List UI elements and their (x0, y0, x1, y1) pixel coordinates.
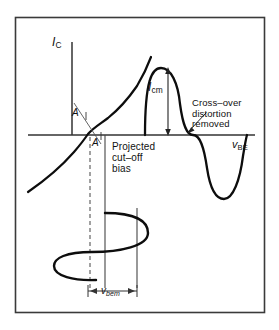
crossover-line-1: Cross–over (192, 97, 242, 108)
vbem-label-sub: bem (106, 290, 120, 297)
crossover-line-2: distortion (192, 108, 232, 119)
vbem-label: vbem (101, 285, 120, 297)
projected-line-2: cut–off (112, 152, 143, 163)
y-axis-label: IC (52, 36, 62, 50)
x-axis-label: vBE (232, 138, 248, 152)
x-axis-label-sub: BE (238, 143, 248, 152)
figure-container: IC vBE Icm Cross–overdistortionremoved P… (0, 0, 279, 330)
icm-label-sub: cm (151, 85, 162, 95)
projected-line-1: Projected (112, 141, 155, 152)
icm-label: Icm (148, 81, 163, 95)
projected-bias-annotation: Projectedcut–offbias (112, 141, 155, 175)
vbem-arrowhead-left (90, 288, 97, 294)
point-a-lower-label: A (92, 137, 99, 148)
vbem-arrowhead-right (128, 288, 135, 294)
input-voltage-waveform (54, 213, 148, 280)
crossover-line-3: removed (192, 118, 230, 129)
crossover-annotation: Cross–overdistortionremoved (192, 98, 242, 130)
projected-line-3: bias (112, 163, 131, 174)
point-a-upper-label: A (72, 107, 79, 118)
y-axis-label-sub: C (55, 40, 61, 50)
